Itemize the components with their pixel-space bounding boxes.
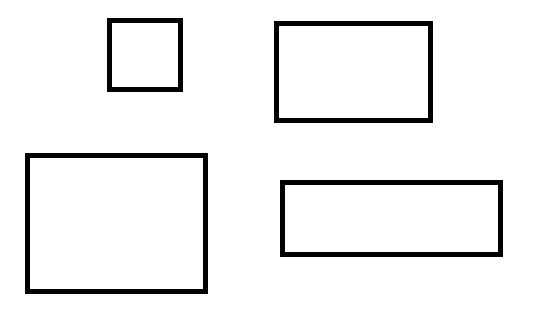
rectangle-shape-1 xyxy=(107,18,183,92)
rectangle-shape-2 xyxy=(274,21,433,123)
rectangle-shape-3 xyxy=(25,153,208,294)
rectangle-shape-4 xyxy=(280,180,503,257)
